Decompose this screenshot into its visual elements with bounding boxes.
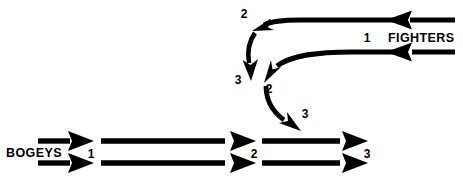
- marker-fighters-turn-upper: 2: [241, 7, 248, 21]
- tactical-intercept-diagram: 2 3 2 3 1 FIGHTERS BOGEYS 1 2 3: [0, 0, 463, 181]
- marker-fighters-merge: 2: [266, 82, 273, 96]
- marker-fighters-start: 1: [364, 31, 371, 45]
- label-fighters: FIGHTERS: [388, 31, 454, 45]
- marker-fighters-turn-lower: 3: [235, 73, 242, 87]
- fighters-upper-inbound-arrow: [252, 11, 455, 32]
- marker-fighters-attack: 3: [302, 107, 309, 121]
- diagram-canvas: 2 3 2 3 1 FIGHTERS BOGEYS 1 2 3: [0, 0, 463, 181]
- marker-bogeys-start: 1: [88, 147, 95, 161]
- marker-bogeys-end: 3: [364, 147, 371, 161]
- fighters-left-turn-curve: [243, 33, 259, 81]
- marker-bogeys-mid: 2: [251, 147, 258, 161]
- label-bogeys: BOGEYS: [6, 146, 62, 160]
- fighters-lower-inbound-arrow: [264, 43, 455, 84]
